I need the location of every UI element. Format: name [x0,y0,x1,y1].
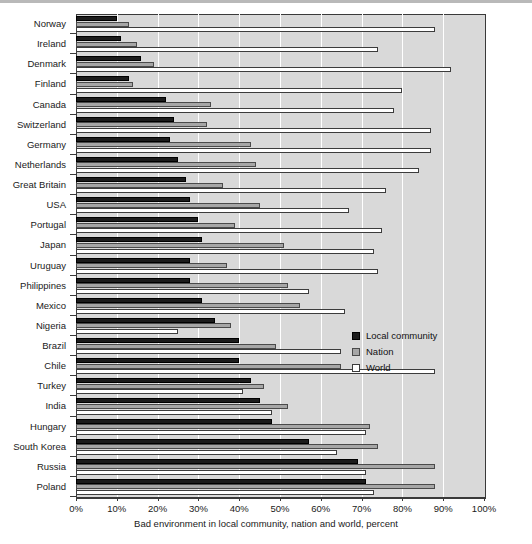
y-axis-label-chile: Chile [44,360,66,371]
x-axis-tick [198,497,199,501]
legend-label: Local community [366,330,437,341]
x-axis-tick [76,497,77,501]
bar [76,56,141,61]
y-axis-label-russia: Russia [37,461,66,472]
bar [76,142,251,147]
bar [76,470,366,475]
bar [76,269,378,274]
y-axis-label-nigeria: Nigeria [36,320,66,331]
bar [76,16,117,21]
bar [76,42,137,47]
bar [76,439,309,444]
bar [76,358,239,363]
bar [76,430,366,435]
bar [76,76,129,81]
chart-legend: Local communityNationWorld [352,330,472,378]
bar-group [76,155,484,175]
bar [76,459,358,464]
y-axis-labels: NorwayIrelandDenmarkFinlandCanadaSwitzer… [0,14,72,497]
bar [76,249,374,254]
y-axis-label-netherlands: Netherlands [15,159,66,170]
bar [76,378,251,383]
bar [76,450,337,455]
bar [76,278,190,283]
y-axis-label-switzerland: Switzerland [17,119,66,130]
bar-group [76,135,484,155]
bar [76,323,231,328]
bar-group [76,417,484,437]
y-axis-label-turkey: Turkey [37,380,66,391]
x-axis-tick-label: 80% [393,503,412,514]
y-axis-label-brazil: Brazil [42,340,66,351]
bar [76,208,349,213]
bar [76,464,435,469]
bar [76,148,431,153]
grouped-bar-chart: NorwayIrelandDenmarkFinlandCanadaSwitzer… [0,0,532,544]
bar [76,203,260,208]
y-axis-label-norway: Norway [34,18,66,29]
bar [76,237,202,242]
x-axis-tick [484,497,485,501]
bar [76,263,227,268]
bar-group [76,74,484,94]
legend-swatch-nation-icon [352,348,360,356]
legend-swatch-local-icon [352,332,360,340]
y-axis-label-portugal: Portugal [31,219,66,230]
bar [76,47,378,52]
bar [76,157,178,162]
x-axis-tick-label: 30% [189,503,208,514]
bar [76,177,186,182]
bar [76,217,198,222]
x-axis-tick-label: 90% [434,503,453,514]
bar [76,364,341,369]
bar-group [76,256,484,276]
x-axis-tick-label: 50% [270,503,289,514]
x-axis-tick-label: 70% [352,503,371,514]
bar-group [76,376,484,396]
x-axis-tick-label: 0% [69,503,83,514]
y-axis-label-poland: Poland [36,481,66,492]
bar [76,298,202,303]
bar [76,419,272,424]
bar [76,162,256,167]
bar [76,484,435,489]
y-axis-label-finland: Finland [35,78,66,89]
y-axis-label-usa: USA [46,199,66,210]
bar [76,404,288,409]
bar [76,228,382,233]
bar [76,223,235,228]
bar [76,444,378,449]
bar [76,389,243,394]
x-axis-tick [239,497,240,501]
bar-group [76,296,484,316]
y-axis-label-great-britain: Great Britain [13,179,66,190]
y-axis-label-denmark: Denmark [27,58,66,69]
bar [76,329,178,334]
bar [76,108,394,113]
x-axis-tick-label: 10% [107,503,126,514]
bar-group [76,195,484,215]
bar [76,243,284,248]
y-axis-label-india: India [45,400,66,411]
bars-layer [76,14,484,497]
x-axis-tick-label: 40% [230,503,249,514]
bar-group [76,54,484,74]
bar-group [76,175,484,195]
bar [76,62,154,67]
x-axis-tick [402,497,403,501]
bar-group [76,396,484,416]
bar [76,479,366,484]
bar [76,344,276,349]
bar [76,27,435,32]
legend-label: World [366,362,391,373]
bar [76,137,170,142]
x-axis-tick [280,497,281,501]
bar [76,67,451,72]
y-axis-label-hungary: Hungary [30,421,66,432]
bar-group [76,34,484,54]
legend-item-world: World [352,362,472,373]
bar [76,22,129,27]
bar [76,490,374,495]
bar-group [76,235,484,255]
y-axis-label-ireland: Ireland [37,38,66,49]
